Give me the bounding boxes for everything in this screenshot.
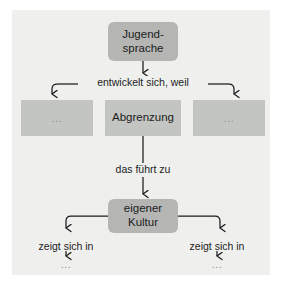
node-right-placeholder: ... (193, 100, 265, 136)
edge-label-das-fuehrt-zu: das führt zu (105, 163, 181, 175)
node-jugendsprache: Jugend- sprache (108, 22, 178, 61)
edge-label-entwickelt-sich-weil: entwickelt sich, weil (78, 76, 208, 88)
node-abgrenzung: Abgrenzung (105, 100, 181, 136)
leaf-placeholder-right: ... (177, 258, 257, 270)
node-left-placeholder: ... (21, 100, 93, 136)
leaf-placeholder-left: ... (26, 258, 106, 270)
edge-label-zeigt-sich-in-right: zeigt sich in (177, 240, 257, 252)
edge-label-zeigt-sich-in-left: zeigt sich in (26, 240, 106, 252)
node-eigener-kultur: eigener Kultur (108, 199, 178, 233)
diagram-root: Jugend- sprache ... Abgrenzung ... eigen… (0, 0, 282, 283)
